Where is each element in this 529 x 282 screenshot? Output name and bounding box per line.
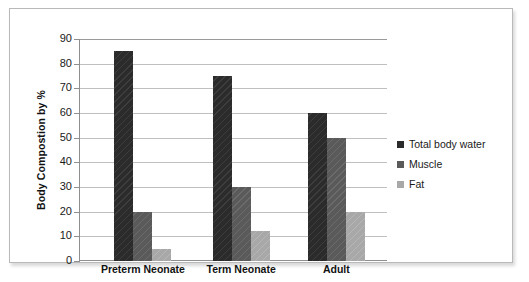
legend-item[interactable]: Muscle	[397, 156, 509, 172]
x-axis-category-label: Adult	[276, 263, 396, 275]
y-axis-tick-label: 80	[26, 58, 72, 69]
y-axis-tick-mark	[74, 64, 79, 65]
legend-swatch-icon	[397, 161, 404, 168]
bar[interactable]	[251, 231, 270, 261]
y-axis-tick-mark	[74, 88, 79, 89]
bar[interactable]	[346, 212, 365, 261]
y-axis-tick-label: 70	[26, 82, 72, 93]
chart-figure: Body Compostion by % 9080706050403020100…	[0, 0, 529, 282]
y-axis-tick-label: 90	[26, 33, 72, 44]
y-axis-tick-mark	[74, 187, 79, 188]
bar-group	[308, 39, 365, 261]
y-axis-tick-mark	[74, 236, 79, 237]
y-axis-tick-mark	[74, 261, 79, 262]
y-axis-tick-label: 40	[26, 156, 72, 167]
y-axis-tick-mark	[74, 212, 79, 213]
y-axis-tick-mark	[74, 162, 79, 163]
bar[interactable]	[152, 249, 171, 261]
plot-area	[80, 39, 387, 261]
chart-card: Body Compostion by % 9080706050403020100…	[9, 8, 513, 263]
bar[interactable]	[308, 113, 327, 261]
y-axis-tick-mark	[74, 39, 79, 40]
y-axis-tick-label: 20	[26, 206, 72, 217]
legend-label: Muscle	[409, 158, 442, 170]
legend-label: Total body water	[409, 138, 485, 150]
y-axis-tick-mark	[74, 138, 79, 139]
bar[interactable]	[133, 212, 152, 261]
bar[interactable]	[327, 138, 346, 261]
y-axis-tick-label: 0	[26, 255, 72, 266]
legend-item[interactable]: Fat	[397, 176, 509, 192]
bar[interactable]	[114, 51, 133, 261]
y-axis-tick-label: 50	[26, 132, 72, 143]
bar[interactable]	[213, 76, 232, 261]
chart-legend: Total body waterMuscleFat	[397, 136, 509, 196]
y-axis-tick-label: 30	[26, 181, 72, 192]
y-axis-tick-label: 10	[26, 230, 72, 241]
bar[interactable]	[232, 187, 251, 261]
y-axis-tick-mark	[74, 113, 79, 114]
legend-swatch-icon	[397, 181, 404, 188]
legend-swatch-icon	[397, 141, 404, 148]
bar-group	[114, 39, 171, 261]
legend-label: Fat	[409, 178, 424, 190]
x-axis-category-labels: Preterm NeonateTerm NeonateAdult	[80, 263, 387, 281]
y-axis-tick-labels: 9080706050403020100	[22, 9, 72, 282]
legend-item[interactable]: Total body water	[397, 136, 509, 152]
bar-group	[213, 39, 270, 261]
y-axis-tick-label: 60	[26, 107, 72, 118]
